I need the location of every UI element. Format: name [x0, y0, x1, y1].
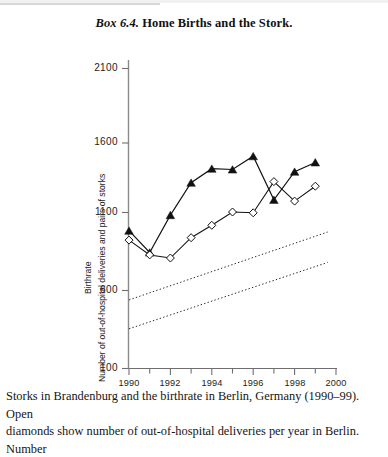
- chart-svg: [0, 42, 388, 382]
- chart-y-ticks: [122, 69, 129, 369]
- series-births: [125, 178, 319, 262]
- y-tick-label-2100: 2100: [84, 62, 118, 73]
- x-tick-label-1998: 1998: [278, 378, 312, 388]
- series-storks: [125, 152, 320, 256]
- y-tick-label-1600: 1600: [84, 136, 118, 147]
- x-tick-label-1996: 1996: [236, 378, 270, 388]
- box-title: Box 6.4. Home Births and the Stork.: [0, 16, 388, 31]
- x-tick-label-2000: 2000: [319, 378, 353, 388]
- caption-line-1: Storks in Brandenburg and the birthrate …: [6, 389, 359, 421]
- box-number: Box 6.4.: [96, 16, 140, 30]
- y-axis-label-outer: Birthrate: [83, 262, 93, 294]
- trendline-births: [129, 262, 328, 328]
- figure-caption: Storks in Brandenburg and the birthrate …: [6, 388, 384, 457]
- x-tick-label-1994: 1994: [195, 378, 229, 388]
- figure-chart: 2100 1600 1100 600 100 1990 1992 1994 19…: [0, 42, 388, 382]
- chart-trendlines: [129, 232, 328, 329]
- trendline-storks: [129, 232, 328, 300]
- box-title-text: Home Births and the Stork.: [139, 16, 292, 30]
- x-tick-label-1992: 1992: [153, 378, 187, 388]
- page-top-rule-secondary: [0, 3, 160, 5]
- y-axis-label-inner: Number of out-of-hospital deliveries and…: [97, 174, 107, 382]
- caption-line-2: diamonds show number of out-of-hospital …: [6, 423, 384, 457]
- x-tick-label-1990: 1990: [112, 378, 146, 388]
- chart-x-ticks: [129, 369, 336, 376]
